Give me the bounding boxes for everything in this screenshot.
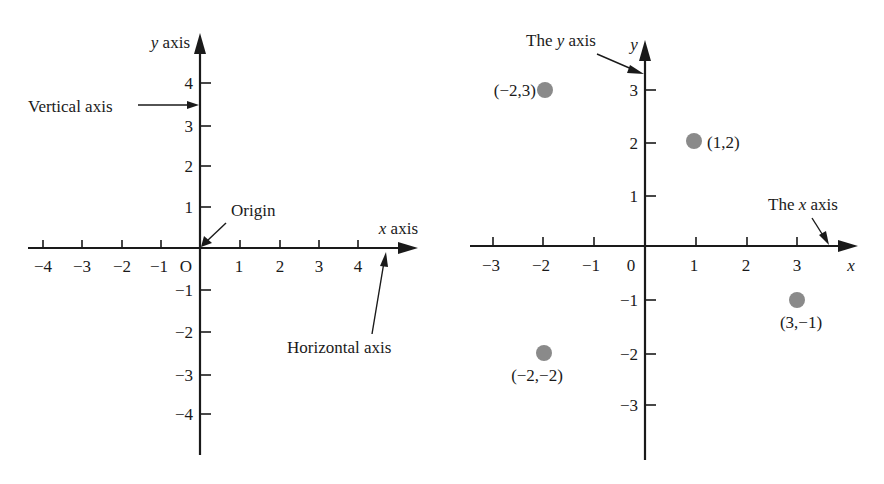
tick-label: −3 (620, 396, 638, 415)
tick-label: −3 (73, 257, 91, 276)
origin-label: Origin (231, 201, 276, 220)
tick-label: 2 (742, 256, 751, 275)
tick-label: 4 (354, 257, 363, 276)
tick-label: −1 (582, 256, 600, 275)
tick-label: −2 (175, 323, 193, 342)
tick-label: 3 (793, 256, 802, 275)
tick-label: 3 (630, 81, 639, 100)
tick-label: 4 (185, 74, 194, 93)
left-x-tick-labels: −4 −3 −2 −1 O 1 2 3 4 (34, 257, 363, 276)
right-panel: −3 −2 −1 0 1 2 3 x 3 2 1 −1 −2 −3 y The … (470, 31, 858, 460)
origin-mark: O (180, 257, 192, 276)
tick-label: −4 (175, 405, 194, 424)
right-x-arrowhead-icon (838, 240, 858, 252)
tick-label: 2 (185, 157, 194, 176)
data-point (789, 292, 805, 308)
tick-label: 1 (185, 198, 194, 217)
point-label: (3,−1) (780, 313, 822, 332)
right-y-tick-labels: 3 2 1 −1 −2 −3 (620, 81, 638, 415)
tick-label: 2 (630, 134, 639, 153)
data-points: (−2,3) (1,2) (3,−1) (−2,−2) (494, 81, 822, 385)
tick-label: −3 (482, 256, 500, 275)
left-x-axis-label: x axis (378, 219, 418, 238)
right-y-axis-label: y (628, 35, 638, 54)
the-y-axis-pointer (597, 54, 634, 70)
tick-label: −1 (620, 291, 638, 310)
vertical-axis-label: Vertical axis (28, 97, 113, 116)
left-y-arrowhead-icon (194, 33, 206, 54)
the-x-axis-label: The x axis (768, 195, 838, 214)
data-point (686, 133, 702, 149)
right-x-tick-labels: −3 −2 −1 0 1 2 3 x (482, 256, 855, 275)
tick-label: 1 (630, 187, 639, 206)
tick-label: −2 (620, 345, 638, 364)
left-x-arrowhead-icon (398, 242, 418, 254)
right-y-ticks (645, 90, 656, 405)
arrowhead-icon (380, 252, 388, 267)
tick-label: −1 (175, 281, 193, 300)
point-label: (−2,3) (494, 81, 536, 100)
tick-label: −2 (532, 256, 550, 275)
tick-label: 1 (235, 257, 244, 276)
point-label: (−2,−2) (511, 366, 563, 385)
horizontal-axis-label: Horizontal axis (287, 338, 391, 357)
origin-pointer (207, 223, 226, 241)
left-panel: −4 −3 −2 −1 O 1 2 3 4 4 3 2 1 −1 −2 −3 −… (28, 33, 418, 455)
data-point (537, 82, 553, 98)
arrowhead-icon (819, 231, 829, 245)
figure-canvas: −4 −3 −2 −1 O 1 2 3 4 4 3 2 1 −1 −2 −3 −… (0, 0, 884, 484)
right-x-axis-label: x (846, 256, 855, 275)
tick-label: 1 (690, 256, 699, 275)
tick-label: −2 (113, 257, 131, 276)
arrowhead-icon (627, 65, 644, 74)
tick-label: 3 (185, 117, 194, 136)
data-point (536, 345, 552, 361)
tick-label: 2 (276, 257, 285, 276)
right-y-arrowhead-icon (639, 40, 651, 61)
arrowhead-icon (187, 101, 199, 109)
tick-label: −3 (175, 366, 193, 385)
left-y-axis-label: y axis (149, 33, 190, 52)
tick-label: −1 (150, 257, 168, 276)
tick-label: 3 (315, 257, 324, 276)
zero-label: 0 (627, 256, 636, 275)
tick-label: −4 (34, 257, 53, 276)
point-label: (1,2) (707, 133, 740, 152)
horizontal-axis-pointer (372, 262, 384, 334)
the-y-axis-label: The y axis (526, 31, 596, 50)
